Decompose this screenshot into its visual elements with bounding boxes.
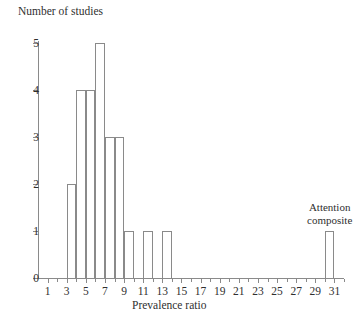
histogram-bar	[76, 90, 86, 279]
y-tick-label: 3	[17, 131, 39, 143]
x-tick	[315, 279, 316, 283]
x-tick	[86, 279, 87, 283]
histogram-bar	[115, 137, 125, 279]
histogram-bar	[143, 231, 153, 279]
x-tick-minor	[95, 279, 96, 282]
x-tick	[334, 279, 335, 283]
x-tick-label: 21	[229, 285, 249, 298]
x-tick-minor	[248, 279, 249, 282]
x-tick-minor	[172, 279, 173, 282]
y-tick-label: 4	[17, 84, 39, 96]
y-tick-label: 5	[17, 37, 39, 49]
x-tick	[277, 279, 278, 283]
x-tick-label: 5	[76, 285, 96, 298]
x-tick-label: 11	[133, 285, 153, 298]
x-tick-minor	[344, 279, 345, 282]
x-tick	[220, 279, 221, 283]
x-tick-minor	[325, 279, 326, 282]
x-tick-label: 1	[38, 285, 58, 298]
x-tick	[67, 279, 68, 283]
histogram-bar	[67, 184, 77, 279]
x-tick-minor	[57, 279, 58, 282]
x-tick-label: 25	[267, 285, 287, 298]
x-tick-label: 19	[210, 285, 230, 298]
bar-annotation-line1: Attention	[270, 201, 362, 214]
x-tick-minor	[229, 279, 230, 282]
y-tick-label: 1	[17, 225, 39, 237]
x-tick-label: 17	[191, 285, 211, 298]
x-tick	[258, 279, 259, 283]
histogram-bar	[95, 43, 105, 279]
histogram-bar	[325, 231, 335, 279]
y-tick-label: 2	[17, 178, 39, 190]
x-tick-minor	[191, 279, 192, 282]
x-tick-minor	[287, 279, 288, 282]
y-axis-line	[38, 41, 39, 279]
bar-annotation: Attentioncomposite	[270, 201, 362, 226]
x-tick	[239, 279, 240, 283]
histogram-bar	[124, 231, 134, 279]
histogram-bar	[105, 137, 115, 279]
x-tick	[296, 279, 297, 283]
x-tick	[143, 279, 144, 283]
x-tick-minor	[153, 279, 154, 282]
x-tick-label: 9	[114, 285, 134, 298]
x-tick	[124, 279, 125, 283]
x-tick-label: 3	[57, 285, 77, 298]
x-tick-minor	[306, 279, 307, 282]
x-tick-label: 31	[324, 285, 344, 298]
x-tick	[48, 279, 49, 283]
x-tick	[105, 279, 106, 283]
x-tick-label: 7	[95, 285, 115, 298]
x-tick	[201, 279, 202, 283]
x-tick-minor	[76, 279, 77, 282]
x-tick	[162, 279, 163, 283]
x-tick-label: 27	[286, 285, 306, 298]
histogram-bar	[86, 90, 96, 279]
histogram-chart: Number of studies 012345 135791113151719…	[0, 0, 362, 324]
y-tick-label: 0	[17, 272, 39, 284]
x-tick-minor	[268, 279, 269, 282]
x-tick-minor	[134, 279, 135, 282]
x-tick-label: 15	[171, 285, 191, 298]
x-tick-minor	[115, 279, 116, 282]
histogram-bar	[162, 231, 172, 279]
bar-annotation-line2: composite	[270, 214, 362, 227]
x-tick-label: 13	[152, 285, 172, 298]
x-tick-minor	[210, 279, 211, 282]
x-tick-label: 23	[248, 285, 268, 298]
x-tick-label: 29	[305, 285, 325, 298]
x-tick	[181, 279, 182, 283]
x-axis-title: Prevalence ratio	[132, 298, 206, 312]
y-axis-title: Number of studies	[18, 4, 103, 18]
